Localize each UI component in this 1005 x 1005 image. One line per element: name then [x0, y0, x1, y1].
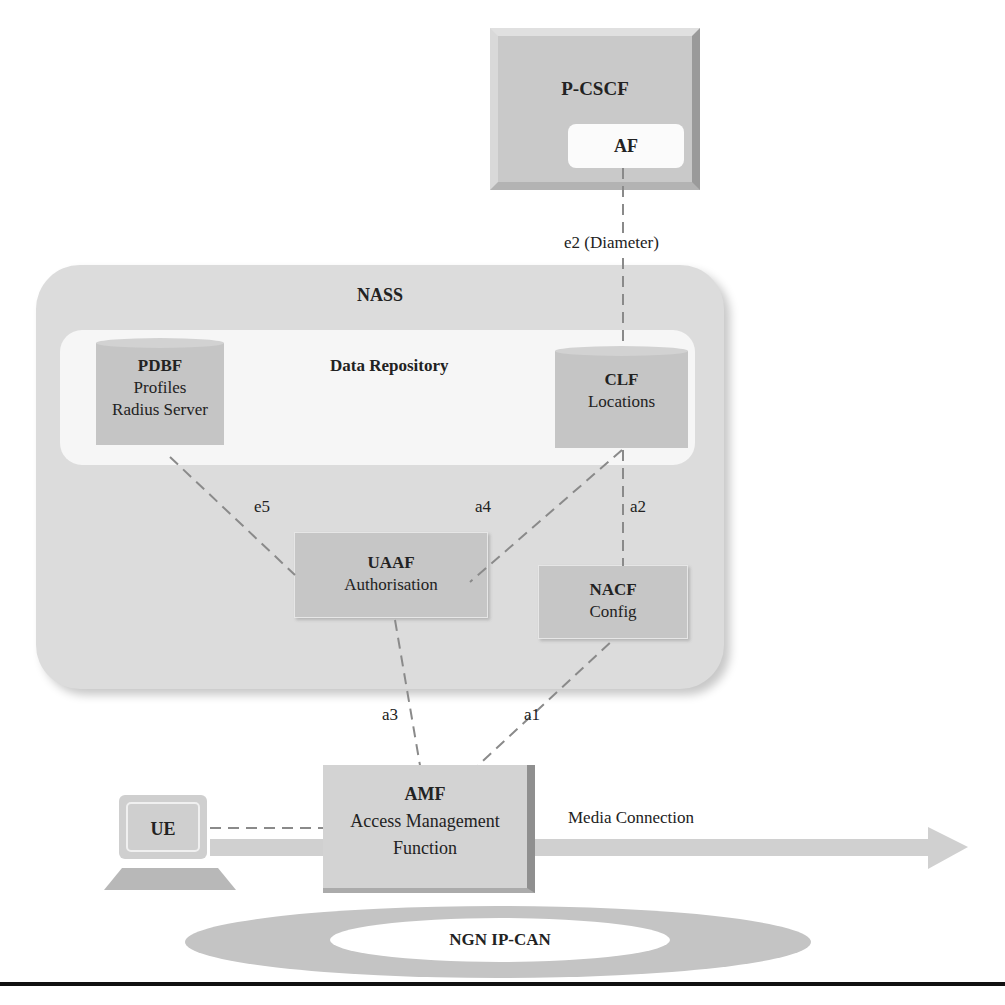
a3-label: a3: [382, 705, 398, 725]
e5-label: e5: [254, 497, 270, 517]
clf-text: CLF Locations: [555, 351, 688, 413]
media-arrow-shaft: [210, 839, 932, 856]
media-connection-label: Media Connection: [568, 808, 694, 828]
ue-label: UE: [128, 804, 198, 854]
e2-label: e2 (Diameter): [562, 233, 661, 253]
ue-node: UE: [119, 795, 207, 859]
amf-title: AMF: [323, 781, 527, 808]
pdbf-title: PDBF: [96, 355, 224, 377]
clf-line1: Locations: [555, 391, 688, 413]
a4-label: a4: [475, 497, 491, 517]
clf-title: CLF: [555, 369, 688, 391]
amf-text: AMF Access Management Function: [323, 781, 527, 862]
bottom-rule: [0, 982, 1005, 986]
media-arrow-head: [928, 827, 968, 869]
a4-line: [470, 450, 622, 582]
ue-keyboard-base: [104, 868, 236, 890]
a1-label: a1: [524, 705, 540, 725]
pdbf-line2: Radius Server: [96, 399, 224, 421]
pdbf-line1: Profiles: [96, 377, 224, 399]
ipcan-label: NGN IP-CAN: [400, 930, 600, 950]
amf-line2: Function: [323, 835, 527, 862]
ue-screen-inner: UE: [126, 802, 200, 852]
e5-line: [170, 457, 295, 575]
pdbf-text: PDBF Profiles Radius Server: [96, 343, 224, 421]
amf-node: AMF Access Management Function: [323, 765, 535, 893]
amf-line1: Access Management: [323, 808, 527, 835]
a2-label: a2: [630, 497, 646, 517]
